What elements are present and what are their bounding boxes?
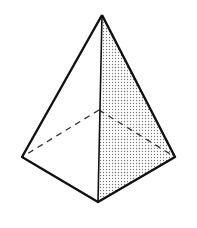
hidden-edge-left <box>22 110 99 157</box>
shaded-face <box>98 15 175 202</box>
tetrahedron-diagram <box>0 0 197 228</box>
